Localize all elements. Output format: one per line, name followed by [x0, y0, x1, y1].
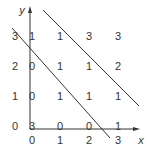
x-tick-label: 2 [86, 135, 92, 146]
grid-value: 1 [86, 61, 92, 72]
x-axis-arrow-icon [133, 127, 140, 131]
grid-value: 3 [115, 31, 121, 42]
y-tick-label: 1 [12, 91, 18, 102]
grid-value: 1 [57, 91, 63, 102]
grid-value: 1 [115, 121, 121, 132]
x-tick-label: 0 [29, 135, 35, 146]
y-tick-label: 3 [12, 31, 18, 42]
diagram-canvas [0, 0, 154, 152]
y-axis-arrow-icon [28, 6, 32, 13]
grid-value: 1 [115, 91, 121, 102]
grid-value: 0 [29, 61, 35, 72]
grid-value: 1 [86, 91, 92, 102]
grid-value: 0 [86, 121, 92, 132]
y-tick-label: 0 [12, 121, 18, 132]
grid-value: 3 [86, 31, 92, 42]
grid-value: 1 [57, 31, 63, 42]
grid-value: 0 [29, 91, 35, 102]
x-tick-label: 3 [115, 135, 121, 146]
x-axis-label: x [138, 135, 144, 146]
y-tick-label: 2 [12, 61, 18, 72]
x-tick-label: 1 [57, 135, 63, 146]
y-axis-label: y [19, 5, 25, 16]
grid-value: 0 [57, 121, 63, 132]
grid-value: 3 [29, 121, 35, 132]
grid-value: 2 [115, 61, 121, 72]
grid-value: 1 [29, 31, 35, 42]
grid-value: 1 [57, 61, 63, 72]
